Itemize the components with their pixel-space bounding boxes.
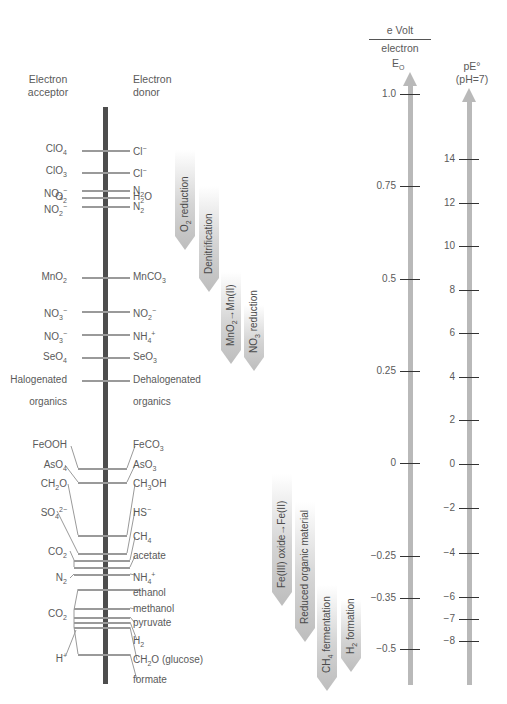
formula-subscript: 4 xyxy=(63,149,67,156)
pe-axis-tick xyxy=(459,333,479,334)
process-label: O2 reduction xyxy=(179,176,192,232)
formula-base: CH xyxy=(133,531,147,542)
formula-subscript: 2 xyxy=(140,207,144,214)
formula-base: SeO xyxy=(133,351,153,362)
formula-superscript: − xyxy=(63,203,67,210)
formula-base: Reduced organic material xyxy=(299,510,310,624)
process-label: CH4 fermentation xyxy=(321,596,334,673)
formula-base: Denitrification xyxy=(203,213,214,274)
process-label: Denitrification xyxy=(203,213,214,274)
acceptor-label: H+ xyxy=(56,650,67,665)
process-arrow: Denitrification xyxy=(199,186,219,292)
formula-base: H xyxy=(56,653,63,664)
formula-base: CO xyxy=(48,608,63,619)
formula-base: MnO xyxy=(41,271,63,282)
eo-axis-tick-label: 1.0 xyxy=(352,88,396,100)
acceptor-label: CO2 xyxy=(48,546,67,562)
formula-subscript: 4 xyxy=(147,578,151,585)
unit-fraction-bar xyxy=(369,39,431,40)
eo-axis-tick-label: 0.5 xyxy=(352,273,396,285)
pe-axis-tick-label: −6 xyxy=(411,591,455,603)
process-arrow: H2 formation xyxy=(341,600,361,672)
formula-base: SeO xyxy=(43,351,63,362)
donor-label: FeCO3 xyxy=(133,439,164,455)
formula-subscript: 4 xyxy=(55,513,59,520)
acceptor-label: N2 xyxy=(56,572,67,588)
pe-axis-tick xyxy=(459,641,479,642)
acceptor-label: ClO4 xyxy=(46,143,67,159)
acceptor-label: organics xyxy=(29,396,67,408)
formula-base: AsO xyxy=(44,459,63,470)
formula-subscript: 2 xyxy=(63,277,67,284)
pe-label-text: pE° xyxy=(452,60,492,73)
formula-subscript: 4 xyxy=(147,537,151,544)
acceptor-label: AsO4 xyxy=(44,459,67,475)
pe-axis-tick xyxy=(459,246,479,247)
formula-superscript: − xyxy=(63,187,67,194)
formula-subscript: 3 xyxy=(160,445,164,452)
formula-base: NO xyxy=(44,204,59,215)
formula-superscript: − xyxy=(63,330,67,337)
formula-subscript: 3 xyxy=(254,334,261,338)
eo-axis-tick-label: 0 xyxy=(352,457,396,469)
pe-label-sub: (pH=7) xyxy=(452,73,492,86)
pe-axis-tick-label: −4 xyxy=(411,547,455,559)
formula-base: ClO xyxy=(46,165,63,176)
formula-base: NO xyxy=(133,308,148,319)
eo-axis-tick-label: −0.35 xyxy=(352,592,396,604)
process-label: Reduced organic material xyxy=(299,510,310,624)
formula-base: acetate xyxy=(133,550,166,561)
eo-label-text: E xyxy=(392,57,399,69)
formula-base: NO xyxy=(248,338,259,353)
formula-base: HS xyxy=(133,507,147,518)
formula-base: CH xyxy=(133,654,147,665)
donor-label: HS− xyxy=(133,504,151,519)
formula-base: MnCO xyxy=(133,271,162,282)
acceptor-label: NO3− xyxy=(44,305,67,324)
pe-axis-tick-label: 6 xyxy=(411,327,455,339)
pe-axis-tick-label: 0 xyxy=(411,458,455,470)
formula-base: CH xyxy=(321,659,332,673)
formula-base: O xyxy=(179,224,190,232)
pe-axis-tick xyxy=(459,553,479,554)
donor-label: CH3OH xyxy=(133,478,166,494)
process-label: Fe(III) oxide→Fe(II) xyxy=(276,501,287,588)
pe-axis-tick-label: 8 xyxy=(411,284,455,296)
formula-tail: reduction xyxy=(179,176,190,220)
eo-axis-tick xyxy=(400,279,420,280)
eo-axis-tick xyxy=(400,94,420,95)
donor-label: N2 xyxy=(133,201,144,217)
pe-label: pE° (pH=7) xyxy=(452,60,492,86)
formula-subscript: 2 xyxy=(63,578,67,585)
pe-axis-tick-label: −7 xyxy=(411,613,455,625)
formula-base: FeOOH xyxy=(33,439,67,450)
pe-axis-tick-label: −8 xyxy=(411,635,455,647)
process-arrow: Fe(III) oxide→Fe(II) xyxy=(272,474,292,606)
pe-axis-arrowhead-icon xyxy=(462,88,476,102)
formula-base: NH xyxy=(133,572,147,583)
donor-label: CH4 xyxy=(133,531,151,547)
formula-subscript: 4 xyxy=(63,465,67,472)
formula-base: NO xyxy=(44,188,59,199)
eo-label-sub: O xyxy=(399,64,404,71)
formula-subscript: 2 xyxy=(231,320,238,324)
eo-axis-arrowhead-icon xyxy=(403,72,417,86)
formula-base: NO xyxy=(44,331,59,342)
pe-axis-tick-label: 4 xyxy=(411,371,455,383)
formula-base: Fe(III) oxide→Fe(II) xyxy=(276,501,287,588)
formula-superscript: − xyxy=(63,307,67,314)
formula-subscript: 3 xyxy=(152,465,156,472)
formula-tail: fermentation xyxy=(321,596,332,654)
formula-tail: formation xyxy=(345,598,356,642)
donor-label: ethanol xyxy=(133,587,166,599)
formula-superscript: − xyxy=(142,167,146,174)
formula-base: N xyxy=(56,572,63,583)
formula-subscript: 2 xyxy=(140,191,144,198)
process-arrow: CH4 fermentation xyxy=(317,585,337,691)
donor-label: CH2O (glucose) xyxy=(133,654,203,670)
formula-tail: OH xyxy=(151,478,166,489)
formula-base: CO xyxy=(48,546,63,557)
donor-label: organics xyxy=(133,396,171,408)
acceptor-label: NO2− xyxy=(44,201,67,220)
acceptor-label: CH2O xyxy=(41,478,67,494)
